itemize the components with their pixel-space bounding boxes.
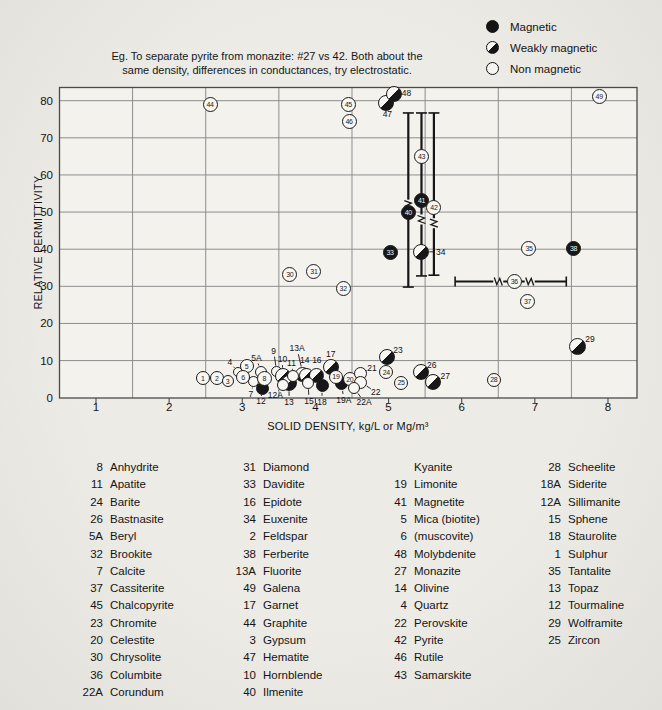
x-tick-label: 4: [312, 401, 318, 413]
mineral-number: 34: [219, 513, 256, 525]
point-label-11: 11: [287, 359, 296, 368]
mineral-name: Samarskite: [414, 669, 472, 681]
mineral-row: 20Celestite: [66, 633, 155, 648]
mineral-name: Galena: [263, 582, 300, 594]
mineral-row: 37Cassiterite: [66, 581, 164, 596]
point-number: 49: [596, 94, 603, 101]
y-tick-label: 80: [23, 95, 53, 107]
point-18: [316, 379, 329, 392]
mineral-name: Sillimanite: [568, 496, 620, 508]
mineral-row: 16Epidote: [219, 494, 302, 509]
point-35: 35: [521, 241, 536, 256]
point-15: [302, 377, 314, 389]
mineral-number: 42: [370, 634, 407, 646]
mineral-name: Garnet: [263, 599, 298, 611]
mineral-name: Scheelite: [568, 461, 615, 473]
mineral-row: 23Chromite: [66, 615, 157, 630]
point-number: 32: [340, 286, 347, 293]
point-number: 44: [207, 101, 214, 108]
point-number: 37: [524, 298, 531, 305]
point-33: 33: [383, 245, 398, 260]
point-label-48: 48: [402, 89, 411, 98]
point-label-13: 13: [284, 398, 293, 407]
mineral-name: Ferberite: [263, 548, 309, 560]
point-1: 1: [196, 371, 210, 385]
mineral-number: 24: [66, 496, 103, 508]
mineral-number: 36: [66, 669, 103, 681]
mineral-number: 46: [370, 651, 407, 663]
point-40: 40: [401, 205, 416, 220]
mineral-name: Epidote: [263, 496, 302, 508]
mineral-number: 31: [219, 461, 256, 473]
mineral-name: Celestite: [110, 634, 155, 646]
mineral-row: 22Perovskite: [370, 615, 468, 630]
mineral-number: 10: [219, 669, 256, 681]
mineral-name: Bastnasite: [110, 513, 164, 525]
point-number: 8: [262, 375, 266, 382]
point-label-47: 47: [383, 110, 392, 119]
mineral-number: 19: [370, 478, 407, 490]
mineral-name: Chrysolite: [110, 651, 161, 663]
mineral-name: Corundum: [110, 686, 164, 698]
point-label-18: 18: [317, 398, 326, 407]
point-label-13A: 13A: [289, 344, 304, 353]
mineral-row: 18Staurolite: [524, 529, 617, 544]
point-number: 1: [201, 375, 205, 382]
point-label-23: 23: [393, 346, 402, 355]
point-number: 33: [386, 250, 393, 257]
mineral-number: 3: [219, 634, 256, 646]
mineral-number: 37: [66, 582, 103, 594]
mineral-name: Cassiterite: [110, 582, 164, 594]
mineral-number: 20: [66, 634, 103, 646]
point-label-27: 27: [440, 372, 449, 381]
mineral-number: 18A: [524, 478, 561, 490]
mineral-number: 41: [370, 496, 407, 508]
x-tick-label: 7: [532, 401, 538, 413]
mineral-name: Tourmaline: [568, 599, 624, 611]
mineral-name: Quartz: [414, 599, 449, 611]
point-number: 45: [345, 101, 352, 108]
mineral-row: 10Hornblende: [219, 667, 322, 682]
mineral-number: 43: [370, 669, 407, 681]
mineral-row: 14Olivine: [370, 581, 449, 596]
mineral-row: 19Limonite: [370, 477, 457, 492]
point-45: 45: [341, 97, 356, 112]
point-number: 35: [525, 245, 532, 252]
mineral-number: 17: [219, 599, 256, 611]
point-label-4: 4: [228, 358, 233, 367]
mineral-number: 1: [524, 548, 561, 560]
mineral-number: 12A: [524, 496, 561, 508]
mineral-name: Rutile: [414, 651, 443, 663]
mineral-name: Columbite: [110, 669, 162, 681]
mineral-row: 7Calcite: [66, 563, 145, 578]
mineral-row: 17Garnet: [219, 598, 298, 613]
mineral-row: 30Chrysolite: [66, 650, 161, 665]
mineral-number: 32: [66, 548, 103, 560]
mineral-row: 45Chalcopyrite: [66, 598, 174, 613]
mineral-row: 31Diamond: [219, 460, 309, 475]
mineral-row: 3Gypsum: [219, 633, 306, 648]
point-label-7: 7: [249, 389, 254, 398]
point-label-16: 16: [312, 356, 321, 365]
point-37: 37: [520, 294, 535, 309]
point-number: 38: [570, 246, 577, 253]
mineral-row: 40Ilmenite: [219, 684, 303, 699]
mineral-name: Chromite: [110, 617, 157, 629]
mineral-name: Staurolite: [568, 530, 617, 542]
mineral-row: 49Galena: [219, 581, 300, 596]
point-25: 25: [394, 376, 408, 390]
mineral-row: 42Pyrite: [370, 633, 443, 648]
mineral-name: Apatite: [110, 478, 146, 490]
mineral-row: 38Ferberite: [219, 546, 309, 561]
mineral-row: 12ASillimanite: [524, 494, 620, 509]
mineral-name: Topaz: [568, 582, 599, 594]
mineral-row: 44Graphite: [219, 615, 307, 630]
mineral-name: Euxenite: [263, 513, 308, 525]
mineral-row: 29Wolframite: [524, 615, 623, 630]
point-label-26: 26: [427, 361, 436, 370]
mineral-name: Olivine: [414, 582, 449, 594]
mineral-row: 24Barite: [66, 494, 140, 509]
point-number: 42: [430, 205, 437, 212]
point-label-19A: 19A: [336, 396, 351, 405]
point-8: 8: [257, 371, 272, 386]
